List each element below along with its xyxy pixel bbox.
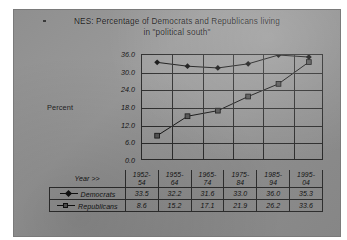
data-point-democrats-4 <box>276 55 282 58</box>
gridline-horizontal <box>142 126 322 127</box>
cell-republicans-4: 26.2 <box>257 200 290 212</box>
y-tick-mark <box>141 108 142 109</box>
y-axis-tick-labels: 36.030.024.018.012.06.00.0 <box>111 54 138 160</box>
category-header-0: 1952-54 <box>125 170 158 188</box>
bullet-icon <box>43 20 46 22</box>
y-tick-label: 18.0 <box>121 103 135 112</box>
y-tick-mark <box>141 143 142 144</box>
cell-democrats-3: 33.0 <box>224 188 257 200</box>
cell-republicans-3: 21.9 <box>224 200 257 212</box>
data-point-republicans-0 <box>155 133 160 138</box>
y-axis-title: Percent <box>47 103 73 112</box>
category-header-1: 1955-64 <box>158 170 191 188</box>
gridline-vertical <box>294 55 295 159</box>
gridline-vertical <box>203 55 204 159</box>
y-tick-label: 0.0 <box>125 156 135 165</box>
gridline-vertical <box>172 55 173 159</box>
chart-title-line-1: NES: Percentage of Democrats and Republi… <box>14 16 340 27</box>
cell-republicans-1: 15.2 <box>158 200 191 212</box>
cell-democrats-1: 32.2 <box>158 188 191 200</box>
table-header-row: Year >> 1952-541955-641965-741975-841985… <box>50 170 323 188</box>
plot-area <box>141 54 323 160</box>
y-tick-mark <box>141 55 142 56</box>
plot-wrapper: 36.030.024.018.012.06.00.0 <box>111 54 323 170</box>
table-row-series-1: Republicans 8.615.217.121.926.233.6 <box>50 200 323 212</box>
data-point-republicans-3 <box>246 94 251 99</box>
table-row-series-0: Democrats 33.532.231.633.036.035.3 <box>50 188 323 200</box>
data-point-republicans-1 <box>185 114 190 119</box>
y-tick-label: 24.0 <box>121 85 135 94</box>
diamond-marker-icon <box>60 190 78 197</box>
chart-title: NES: Percentage of Democrats and Republi… <box>14 16 340 38</box>
data-point-democrats-0 <box>154 59 160 65</box>
gridline-horizontal <box>142 108 322 109</box>
cell-republicans-2: 17.1 <box>191 200 224 212</box>
gridline-vertical <box>233 55 234 159</box>
square-marker-icon <box>57 202 75 209</box>
y-tick-label: 36.0 <box>121 50 135 59</box>
gridline-horizontal <box>142 73 322 74</box>
data-point-democrats-2 <box>215 65 221 71</box>
data-point-democrats-1 <box>185 63 191 69</box>
cell-democrats-0: 33.5 <box>125 188 158 200</box>
y-tick-label: 6.0 <box>125 138 135 147</box>
data-point-democrats-3 <box>245 61 251 67</box>
y-tick-mark <box>141 73 142 74</box>
legend-democrats: Democrats <box>50 188 126 200</box>
gridline-horizontal <box>142 90 322 91</box>
y-tick-label: 12.0 <box>121 120 135 129</box>
year-header-cell: Year >> <box>50 170 126 188</box>
category-header-2: 1965-74 <box>191 170 224 188</box>
data-table: Year >> 1952-541955-641965-741975-841985… <box>49 170 323 212</box>
category-header-4: 1985-94 <box>257 170 290 188</box>
gridline-horizontal <box>142 143 322 144</box>
slide-canvas: NES: Percentage of Democrats and Republi… <box>14 10 340 236</box>
category-header-5: 1995-04 <box>290 170 323 188</box>
legend-republicans: Republicans <box>50 200 126 212</box>
data-point-democrats-5 <box>306 55 312 60</box>
cell-democrats-5: 35.3 <box>290 188 323 200</box>
cell-democrats-4: 36.0 <box>257 188 290 200</box>
data-point-republicans-4 <box>276 81 281 86</box>
y-tick-mark <box>141 90 142 91</box>
y-tick-label: 30.0 <box>121 67 135 76</box>
cell-democrats-2: 31.6 <box>191 188 224 200</box>
series-0-name: Democrats <box>81 190 116 197</box>
chart-title-line-2: in "political south" <box>14 27 340 38</box>
category-header-3: 1975-84 <box>224 170 257 188</box>
gridline-vertical <box>263 55 264 159</box>
series-1-name: Republicans <box>78 202 118 209</box>
cell-republicans-0: 8.6 <box>125 200 158 212</box>
cell-republicans-5: 33.6 <box>290 200 323 212</box>
y-tick-mark <box>141 126 142 127</box>
data-point-republicans-5 <box>306 60 311 65</box>
